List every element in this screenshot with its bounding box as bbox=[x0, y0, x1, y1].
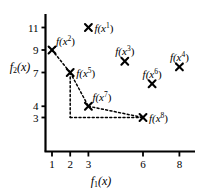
point-label-1: f(x1) bbox=[94, 20, 113, 35]
point-label-3: f(x3) bbox=[115, 44, 134, 59]
data-point-1 bbox=[85, 24, 92, 31]
data-point-6 bbox=[149, 80, 156, 87]
point-label-6: f(x6) bbox=[143, 66, 162, 81]
chart-canvas: 34791112368f1(x)f2(x)f(x1)f(x2)f(x3)f(x4… bbox=[0, 0, 202, 192]
y-tick-label-3: 3 bbox=[33, 112, 39, 124]
point-label-2: f(x2) bbox=[56, 34, 75, 49]
data-point-3 bbox=[121, 58, 128, 65]
x-tick-label-2: 2 bbox=[67, 158, 73, 170]
x-tick-label-8: 8 bbox=[177, 158, 183, 170]
front-segment-7-8 bbox=[88, 106, 143, 117]
x-axis-title-text: f1(x) bbox=[91, 174, 112, 189]
y-tick-label-11: 11 bbox=[28, 22, 39, 34]
y-tick-label-4: 4 bbox=[33, 100, 39, 112]
x-axis-title: f1(x) bbox=[91, 174, 112, 189]
point-label-5: f(x5) bbox=[76, 65, 95, 80]
y-axis-title-text: f2(x) bbox=[10, 60, 31, 75]
point-label-7: f(x7) bbox=[92, 90, 111, 105]
y-tick-label-7: 7 bbox=[33, 67, 39, 79]
point-label-8: f(x8) bbox=[149, 110, 168, 125]
y-tick-label-9: 9 bbox=[33, 44, 39, 56]
pareto-front-scatter-figure: 34791112368f1(x)f2(x)f(x1)f(x2)f(x3)f(x4… bbox=[0, 0, 202, 192]
x-tick-label-6: 6 bbox=[140, 158, 146, 170]
x-tick-label-1: 1 bbox=[49, 158, 55, 170]
y-axis-title: f2(x) bbox=[10, 60, 31, 75]
data-point-4 bbox=[176, 63, 183, 70]
point-label-4: f(x4) bbox=[170, 49, 189, 64]
data-point-2 bbox=[49, 47, 56, 54]
x-tick-label-3: 3 bbox=[86, 158, 92, 170]
